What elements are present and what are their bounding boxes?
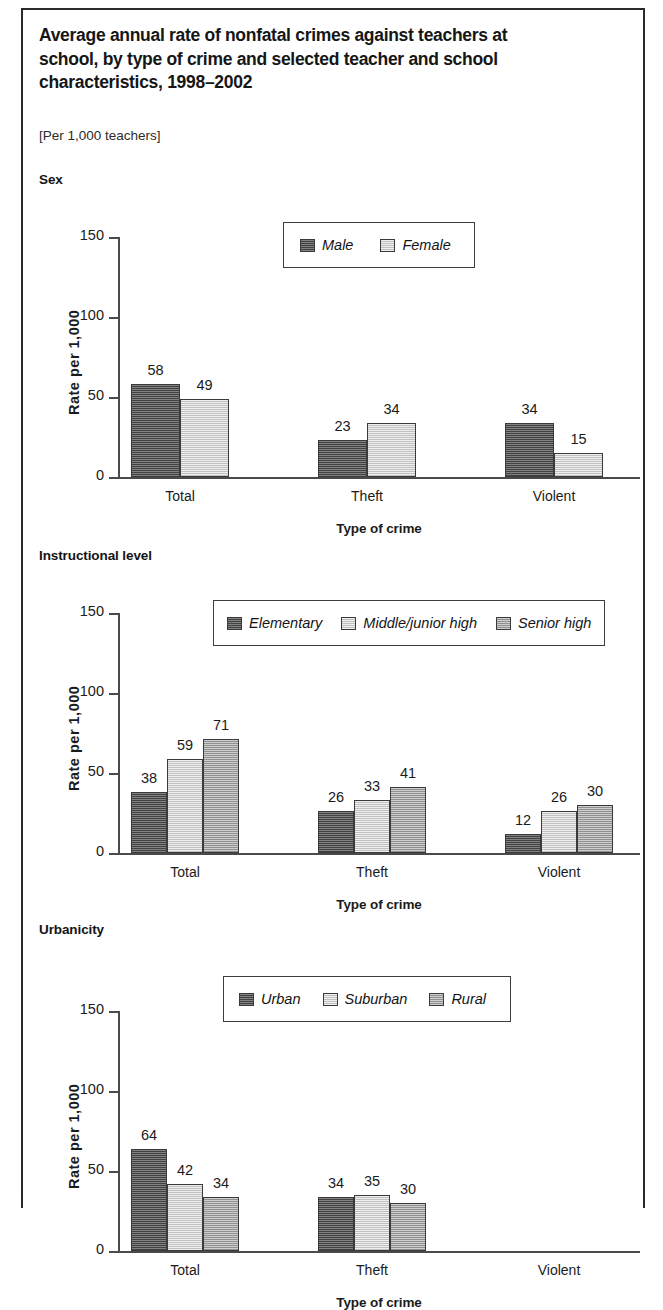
panel-heading: Instructional level: [39, 548, 152, 563]
chart-legend: MaleFemale: [283, 222, 475, 268]
y-axis-tick-label: 50: [52, 1161, 104, 1177]
y-axis-tick: [109, 1011, 118, 1013]
bar: [354, 1195, 390, 1251]
units-note: [Per 1,000 teachers]: [39, 128, 161, 143]
y-axis-tick: [109, 477, 118, 479]
bar-value-label: 58: [132, 362, 180, 378]
bar-value-label: 12: [499, 812, 547, 828]
legend-item-label: Female: [402, 237, 450, 253]
figure-title-line-3: characteristics, 1998–2002: [39, 71, 614, 95]
y-axis-tick: [109, 1171, 118, 1173]
bar: [167, 1184, 203, 1251]
bar: [354, 800, 390, 853]
x-axis-line: [112, 1251, 640, 1253]
bar: [203, 739, 239, 853]
bar-value-label: 38: [125, 770, 173, 786]
legend-swatch-icon: [300, 239, 315, 252]
x-axis-line: [112, 853, 640, 855]
legend-swatch-icon: [323, 993, 338, 1006]
y-axis-tick: [109, 853, 118, 855]
y-axis-tick-label: 100: [52, 307, 104, 323]
legend-item: Rural: [429, 991, 486, 1007]
panel-heading: Sex: [39, 172, 63, 187]
legend-item-label: Rural: [451, 991, 486, 1007]
x-axis-category-label: Total: [125, 488, 235, 504]
chart-legend: ElementaryMiddle/junior highSenior high: [213, 600, 605, 646]
x-axis-label: Type of crime: [118, 1295, 640, 1310]
legend-swatch-icon: [496, 617, 511, 630]
bar-value-label: 64: [125, 1127, 173, 1143]
legend-item-label: Elementary: [249, 615, 322, 631]
x-axis-category-label: Theft: [317, 864, 427, 880]
legend-item-label: Middle/junior high: [363, 615, 477, 631]
bar-value-label: 59: [161, 737, 209, 753]
x-axis-category-label: Violent: [504, 864, 614, 880]
bar: [554, 453, 603, 477]
panel-heading: Urbanicity: [39, 922, 104, 937]
bar: [390, 787, 426, 853]
bar: [131, 384, 180, 477]
legend-swatch-icon: [227, 617, 242, 630]
y-axis-tick: [109, 397, 118, 399]
y-axis-tick: [109, 317, 118, 319]
legend-item: Male: [300, 237, 353, 253]
y-axis-tick: [109, 237, 118, 239]
figure-title-line-2: school, by type of crime and selected te…: [39, 48, 614, 72]
legend-item-label: Senior high: [518, 615, 591, 631]
x-axis-category-label: Violent: [499, 488, 609, 504]
bar: [390, 1203, 426, 1251]
y-axis-line: [118, 613, 120, 854]
legend-item: Middle/junior high: [341, 615, 477, 631]
legend-item-label: Urban: [261, 991, 301, 1007]
bar: [131, 792, 167, 853]
figure-title: Average annual rate of nonfatal crimes a…: [39, 24, 614, 95]
y-axis-tick: [109, 1091, 118, 1093]
bar-value-label: 41: [384, 765, 432, 781]
x-axis-category-label: Theft: [312, 488, 422, 504]
bar: [180, 399, 229, 477]
bar-value-label: 34: [368, 401, 416, 417]
legend-item-label: Male: [322, 237, 353, 253]
y-axis-tick-label: 100: [52, 1081, 104, 1097]
y-axis-tick-label: 50: [52, 763, 104, 779]
bar-value-label: 30: [571, 783, 619, 799]
legend-item: Elementary: [227, 615, 322, 631]
y-axis-tick-label: 100: [52, 683, 104, 699]
y-axis-tick: [109, 693, 118, 695]
y-axis-tick: [109, 613, 118, 615]
legend-item: Suburban: [323, 991, 408, 1007]
bar-value-label: 71: [197, 717, 245, 733]
y-axis-tick-label: 150: [52, 227, 104, 243]
bar: [318, 440, 367, 477]
legend-item-label: Suburban: [345, 991, 408, 1007]
y-axis-tick-label: 50: [52, 387, 104, 403]
x-axis-line: [112, 477, 640, 479]
bar: [318, 811, 354, 853]
x-axis-category-label: Total: [130, 864, 240, 880]
bar-value-label: 49: [181, 377, 229, 393]
legend-swatch-icon: [429, 993, 444, 1006]
bar-value-label: 34: [197, 1175, 245, 1191]
legend-swatch-icon: [239, 993, 254, 1006]
bar: [505, 423, 554, 477]
x-axis-category-label: Violent: [504, 1262, 614, 1278]
figure-title-line-1: Average annual rate of nonfatal crimes a…: [39, 24, 614, 48]
bar: [318, 1197, 354, 1251]
bar: [367, 423, 416, 477]
y-axis-tick-label: 150: [52, 1001, 104, 1017]
bar-value-label: 23: [319, 418, 367, 434]
x-axis-label: Type of crime: [118, 521, 640, 536]
y-axis-tick: [109, 1251, 118, 1253]
legend-swatch-icon: [380, 239, 395, 252]
chart-legend: UrbanSuburbanRural: [223, 976, 511, 1022]
legend-item: Urban: [239, 991, 301, 1007]
y-axis-line: [118, 1011, 120, 1252]
y-axis-tick-label: 150: [52, 603, 104, 619]
bar-value-label: 30: [384, 1181, 432, 1197]
y-axis-line: [118, 237, 120, 478]
legend-swatch-icon: [341, 617, 356, 630]
y-axis-tick-label: 0: [52, 1241, 104, 1257]
bar-value-label: 34: [506, 401, 554, 417]
legend-item: Senior high: [496, 615, 591, 631]
